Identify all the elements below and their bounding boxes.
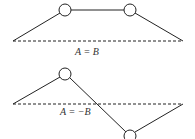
symmetric-mode-diagram: A = B <box>13 4 183 57</box>
diagram-canvas: A = B A = −B <box>0 0 195 139</box>
label-symmetric: A = B <box>74 46 99 57</box>
mass-b-bottom <box>124 130 136 139</box>
string-segment-right-bottom <box>135 104 183 132</box>
mass-a-bottom <box>59 68 71 80</box>
string-segment-left-bottom <box>13 77 60 104</box>
mass-a-top <box>59 4 71 16</box>
string-segment-right-top <box>135 13 183 41</box>
string-segment-middle-bottom <box>70 78 126 132</box>
label-antisymmetric: A = −B <box>59 106 91 117</box>
mass-b-top <box>124 4 136 16</box>
antisymmetric-mode-diagram: A = −B <box>13 68 183 139</box>
string-segment-left-top <box>13 13 60 41</box>
